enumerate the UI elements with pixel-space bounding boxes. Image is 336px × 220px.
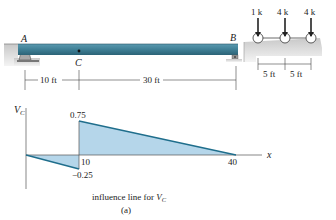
load-label-1: 1 k	[251, 7, 263, 17]
x-axis-label: x	[266, 149, 272, 160]
min-value-label: −0.25	[72, 170, 93, 180]
x-end-label: 40	[228, 157, 238, 167]
load-label-3: 4 k	[304, 7, 316, 17]
beam-diagram: 1 k 4 k 4 k 5 ft 5 ft A B C 10 ft 30 ft …	[0, 0, 336, 220]
label-a: A	[20, 33, 28, 44]
influence-line-chart: VC x 0.75 −0.25 10 40	[14, 104, 272, 189]
beam	[18, 44, 238, 55]
label-b: B	[230, 32, 236, 43]
dim-label-ac: 10 ft	[40, 75, 57, 85]
label-c: C	[75, 57, 82, 68]
load-train: 1 k 4 k 4 k	[251, 7, 316, 43]
load-4k-2	[306, 18, 316, 43]
load-1k	[253, 18, 263, 43]
roller-support-b	[226, 55, 242, 62]
spacing-label-2: 5 ft	[290, 69, 303, 79]
point-c-marker	[78, 50, 81, 53]
y-axis-label: VC	[14, 104, 25, 117]
load-label-2: 4 k	[277, 7, 289, 17]
max-value-label: 0.75	[70, 110, 86, 120]
x-c-label: 10	[81, 157, 91, 167]
dim-label-cb: 30 ft	[143, 75, 160, 85]
caption: influence line for VC	[92, 192, 167, 203]
load-4k-1	[280, 18, 290, 43]
caption-sub: (a)	[121, 205, 131, 215]
spacing-label-1: 5 ft	[263, 69, 276, 79]
